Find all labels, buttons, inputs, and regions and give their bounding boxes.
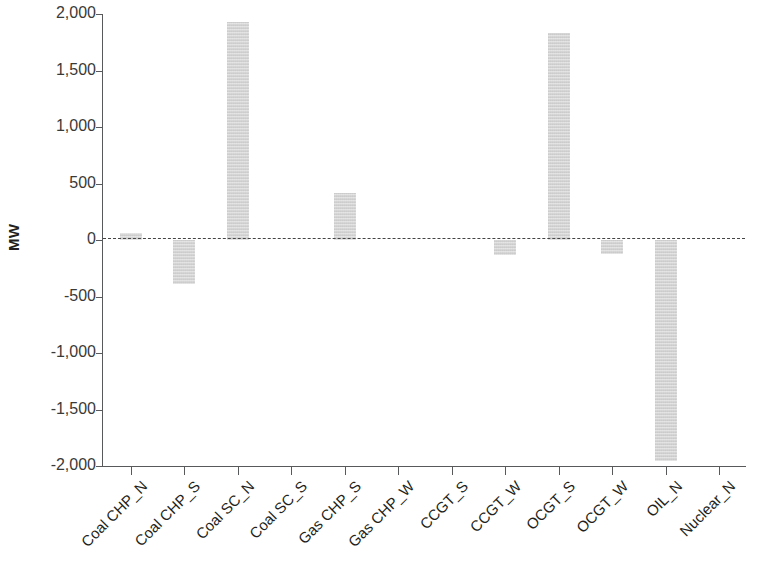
x-axis-tick-mark — [666, 467, 667, 475]
y-axis-tick-label: 500 — [34, 175, 96, 191]
y-axis-tick-label: 1,000 — [34, 118, 96, 134]
y-axis-tick-label: -2,000 — [34, 457, 96, 473]
bar — [227, 22, 249, 240]
x-axis-tick-mark — [612, 467, 613, 475]
x-axis-tick-label-text: CCGT_S — [417, 478, 471, 532]
x-axis-tick-mark — [505, 467, 506, 475]
x-axis-tick-mark — [719, 467, 720, 475]
zero-reference-line — [103, 238, 745, 239]
x-axis-tick-label-text: OIL_N — [643, 478, 684, 519]
y-axis-tick-mark — [96, 184, 103, 185]
bar — [173, 240, 195, 284]
x-axis-tick-mark — [184, 467, 185, 475]
x-axis-tick-label-text: OCGT_W — [573, 478, 630, 535]
y-axis-tick-label: -1,000 — [34, 344, 96, 360]
y-axis-label-text: MW — [6, 223, 23, 250]
y-axis-tick-mark — [96, 297, 103, 298]
y-axis-tick-mark — [96, 71, 103, 72]
bar — [548, 33, 570, 240]
bar — [601, 240, 623, 254]
y-axis-tick-label: 0 — [34, 231, 96, 247]
y-axis-tick-label: -1,500 — [34, 401, 96, 417]
x-axis-tick-mark — [559, 467, 560, 475]
y-axis-tick-label: 1,500 — [34, 62, 96, 78]
y-axis-tick-mark — [96, 14, 103, 15]
y-axis-tick-label: -500 — [34, 288, 96, 304]
y-axis-tick-mark — [96, 240, 103, 241]
y-axis-tick-mark — [96, 466, 103, 467]
x-axis-tick-mark — [398, 467, 399, 475]
y-axis-tick-label: 2,000 — [34, 5, 96, 21]
x-axis-tick-mark — [345, 467, 346, 475]
bar — [334, 193, 356, 240]
x-axis-tick-mark — [238, 467, 239, 475]
x-axis-tick-label-text: Nuclear_N — [677, 478, 738, 539]
y-axis-tick-mark — [96, 353, 103, 354]
x-axis-tick-label-text: CCGT_W — [467, 478, 524, 535]
bar-chart: MW 2,0001,5001,0005000-500-1,000-1,500-2… — [0, 0, 757, 571]
x-axis-tick-label-text: OCGT_S — [523, 478, 577, 532]
y-axis-tick-mark — [96, 410, 103, 411]
y-axis-tick-mark — [96, 127, 103, 128]
x-axis-tick-mark — [131, 467, 132, 475]
y-axis-tick-labels: 2,0001,5001,0005000-500-1,000-1,500-2,00… — [22, 0, 96, 480]
x-axis-tick-mark — [291, 467, 292, 475]
x-axis-tick-mark — [452, 467, 453, 475]
bar — [655, 240, 677, 461]
x-axis-line — [102, 466, 746, 467]
plot-area — [103, 14, 745, 466]
bar — [494, 240, 516, 255]
